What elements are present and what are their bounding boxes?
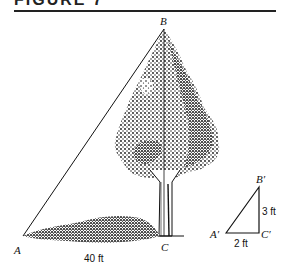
vertex-label-B: B xyxy=(160,15,167,27)
small-triangle xyxy=(226,187,259,233)
vertex-label-B-prime: B′ xyxy=(256,173,266,185)
vertex-label-A-prime: A′ xyxy=(209,228,220,240)
vertex-label-C: C xyxy=(161,241,169,253)
height-measure-3ft: 3 ft xyxy=(262,206,276,217)
similar-triangles-diagram: B A C 40 ft B′ A′ C′ 3 ft 2 ft xyxy=(0,0,288,275)
vertex-label-A: A xyxy=(13,244,21,256)
base-measure-40ft: 40 ft xyxy=(84,253,104,264)
vertex-label-C-prime: C′ xyxy=(261,228,271,240)
base-measure-2ft: 2 ft xyxy=(234,238,248,249)
tree-foliage xyxy=(115,29,220,178)
tree-shadow xyxy=(23,216,160,243)
tree-trunk xyxy=(150,170,184,236)
